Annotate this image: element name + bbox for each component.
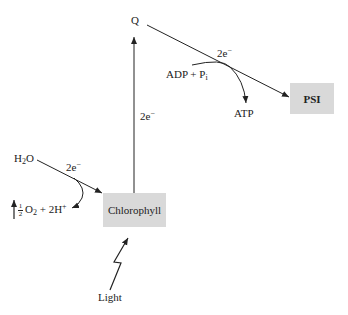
diagram-arrows: [0, 0, 348, 315]
light-label: Light: [98, 292, 122, 303]
node-psi: PSI: [290, 83, 334, 114]
h2o-label: H2O: [14, 153, 34, 166]
edge-q-to-psi-label: 2e−: [217, 47, 232, 59]
fraction-numerator: 1: [19, 203, 23, 210]
node-q-label: Q: [131, 15, 139, 26]
oxygen-label: 1 2 O2 + 2H+: [18, 203, 67, 218]
adp-label-text: ADP + P: [166, 68, 205, 80]
edge-h2o-to-chlorophyll-label: 2e−: [66, 161, 81, 173]
node-chlorophyll: Chlorophyll: [103, 193, 166, 227]
oxygen-sup: +: [62, 202, 67, 211]
lightning-bolt-icon: [110, 238, 128, 290]
edge-label-sup: −: [76, 160, 81, 169]
one-half-fraction: 1 2: [18, 203, 23, 218]
edge-label-text: 2e: [140, 110, 150, 122]
fraction-denominator: 2: [19, 211, 23, 218]
atp-label: ATP: [234, 108, 254, 119]
adp-label: ADP + Pi: [166, 69, 208, 82]
oxygen-o: O: [25, 203, 33, 215]
edge-label-text: 2e: [217, 47, 227, 59]
arrow-q-to-psi: [147, 25, 289, 97]
h2o-label-o: O: [26, 152, 34, 164]
edge-label-text: 2e: [66, 161, 76, 173]
adp-label-sub: i: [205, 73, 207, 82]
edge-label-sup: −: [150, 109, 155, 118]
oxygen-mid: + 2H: [37, 203, 62, 215]
edge-label-sup: −: [227, 46, 232, 55]
edge-chlorophyll-to-q-label: 2e−: [140, 110, 155, 122]
h2o-label-h: H: [14, 152, 22, 164]
